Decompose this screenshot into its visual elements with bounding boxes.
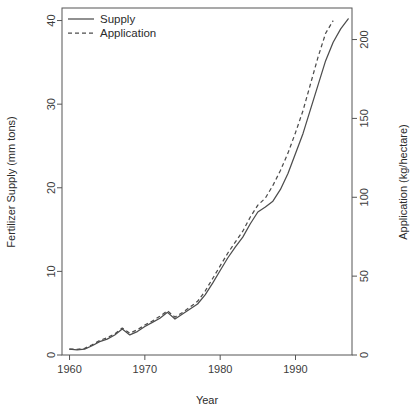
series-line-supply: [70, 19, 349, 350]
y-tick-label-left: 30: [45, 98, 57, 110]
y-tick-label-right: 50: [358, 270, 370, 282]
y-tick-label-right: 100: [358, 188, 370, 206]
legend-label-supply: Supply: [100, 13, 135, 25]
x-tick-label: 1960: [57, 363, 81, 375]
legend-label-application: Application: [100, 27, 156, 39]
y-tick-label-right: 0: [358, 352, 370, 358]
chart-legend: Supply Application: [68, 13, 156, 39]
y-axis-left-tick-labels: 010203040: [45, 14, 57, 358]
x-axis-title: Year: [196, 394, 219, 406]
x-tick-label: 1970: [133, 363, 157, 375]
x-tick-label: 1990: [283, 363, 307, 375]
y-tick-label-right: 150: [358, 109, 370, 127]
y-tick-label-right: 200: [358, 30, 370, 48]
chart-canvas: 010203040 050100150200 1960197019801990 …: [0, 0, 418, 417]
y-axis-right-title: Application (kg/hectare): [397, 124, 409, 240]
y-axis-left-ticks: [57, 21, 62, 355]
y-tick-label-left: 0: [45, 352, 57, 358]
y-tick-label-left: 20: [45, 182, 57, 194]
y-tick-label-left: 10: [45, 265, 57, 277]
y-tick-label-left: 40: [45, 14, 57, 26]
x-tick-label: 1980: [208, 363, 232, 375]
fertilizer-line-chart: 010203040 050100150200 1960197019801990 …: [0, 0, 418, 417]
x-axis-ticks: [70, 355, 296, 360]
y-axis-left-title: Fertilizer Supply (mm tons): [5, 116, 17, 247]
plot-area-frame: [62, 8, 352, 355]
y-axis-right-ticks: [352, 40, 357, 355]
y-axis-right-tick-labels: 050100150200: [358, 30, 370, 358]
x-axis-tick-labels: 1960197019801990: [57, 363, 307, 375]
